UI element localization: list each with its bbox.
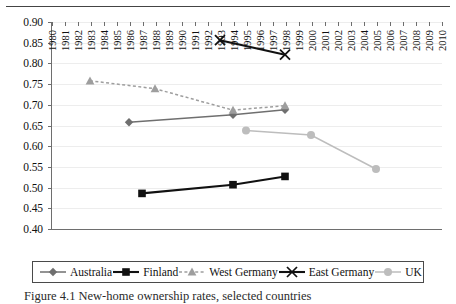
legend-key-square-icon [112,266,140,278]
data-point-circle [372,165,380,173]
series-line [220,40,285,54]
legend-label: Australia [70,266,112,278]
data-point-triangle [188,268,197,276]
legend-label: West Germany [209,266,277,278]
legend-item-australia[interactable]: Australia [39,266,112,278]
legend-label: UK [405,266,422,278]
series-line [90,81,285,110]
series-australia [125,106,289,127]
data-point-diamond [49,268,57,276]
data-point-square [229,181,237,189]
legend-item-west-germany[interactable]: West Germany [178,266,277,278]
data-point-circle [242,126,250,134]
legend-key-diamond-icon [39,266,67,278]
figure-caption: Figure 4.1 New-home ownership rates, sel… [24,289,311,304]
chart-legend: AustraliaFinlandWest GermanyEast Germany… [32,261,424,283]
legend-label: East Germany [309,266,374,278]
legend-item-finland[interactable]: Finland [112,266,178,278]
series-west-germany [86,76,290,113]
series-east-germany [215,35,290,59]
legend-label: Finland [143,266,178,278]
data-point-triangle [86,76,95,84]
series-uk [242,126,380,173]
series-line [129,110,285,122]
data-point-square [281,173,289,181]
data-point-diamond [125,118,133,126]
legend-item-uk[interactable]: UK [374,266,422,278]
legend-key-cross-icon [278,266,306,278]
data-point-circle [307,131,315,139]
series-layer [0,12,456,255]
data-point-square [138,190,146,198]
legend-key-triangle-icon [178,266,206,278]
top-divider [6,6,450,7]
legend-item-east-germany[interactable]: East Germany [278,266,374,278]
plot-wrapper: 0.400.450.500.550.600.650.700.750.800.85… [0,12,456,255]
legend-key-circle-icon [374,266,402,278]
series-line [142,176,285,193]
series-finland [138,173,289,198]
data-point-circle [384,268,392,276]
data-point-square [122,268,130,276]
